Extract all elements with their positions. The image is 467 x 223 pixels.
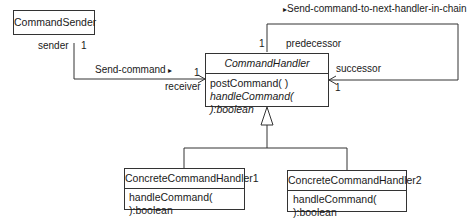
operation: handleCommand( ):boolean — [129, 191, 240, 217]
sender-role: sender — [38, 40, 69, 51]
class-name: CommandSender — [14, 11, 94, 34]
receiver-role: receiver — [165, 81, 201, 92]
operation: postCommand( ) — [210, 77, 324, 90]
class-name: ConcreteCommandHandler2 — [288, 171, 406, 191]
successor-multiplicity: 1 — [335, 82, 341, 93]
predecessor-role: predecessor — [286, 38, 341, 49]
class-name: ConcreteCommandHandler1 — [125, 169, 244, 189]
class-command-handler: CommandHandler postCommand( ) handleComm… — [205, 53, 329, 107]
chain-label: ▸Send-command-to-next-handler-in-chain — [283, 3, 467, 14]
class-concrete-handler-1: ConcreteCommandHandler1 handleCommand( )… — [124, 168, 245, 210]
class-command-sender: CommandSender — [13, 10, 95, 35]
receiver-multiplicity: 1 — [194, 67, 200, 78]
operation: handleCommand( ):boolean — [293, 193, 401, 219]
predecessor-multiplicity: 1 — [259, 38, 265, 49]
successor-role: successor — [336, 63, 381, 74]
send-command-label: Send-command ▸ — [95, 64, 172, 75]
operation: handleCommand( ):boolean — [210, 90, 324, 116]
class-name: CommandHandler — [206, 54, 328, 74]
sender-multiplicity: 1 — [81, 40, 87, 51]
class-concrete-handler-2: ConcreteCommandHandler2 handleCommand( )… — [287, 170, 407, 212]
direction-arrow-icon: ▸ — [168, 66, 172, 75]
